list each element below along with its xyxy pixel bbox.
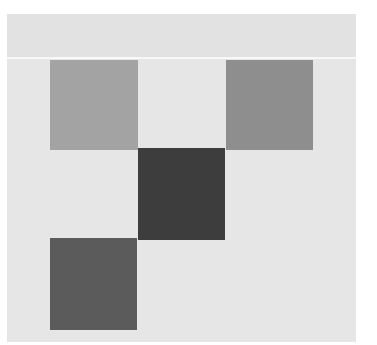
figure-panel (7, 14, 356, 342)
divider-line (7, 57, 356, 59)
top-left-square (50, 60, 138, 150)
header-band (7, 14, 356, 57)
bottom-left-square (50, 238, 137, 330)
top-right-square (226, 60, 313, 150)
center-square (138, 148, 225, 240)
